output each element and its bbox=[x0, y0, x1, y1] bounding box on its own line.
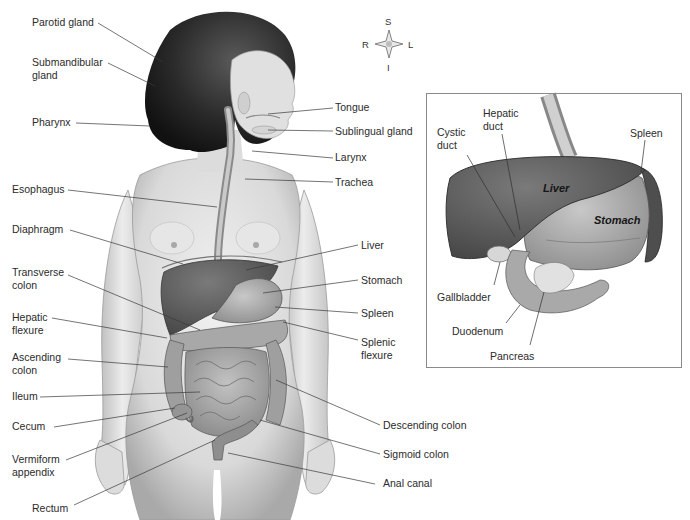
label-transverse-colon: Transverse colon bbox=[12, 266, 64, 291]
digestive-system-figure: S R L I Parotid gland Submandibular glan… bbox=[0, 0, 690, 520]
inset-label-hepatic-duct: Hepatic duct bbox=[483, 107, 519, 132]
label-splenic-flexure: Splenic flexure bbox=[361, 336, 395, 361]
label-submandibular-gland: Submandibular gland bbox=[32, 56, 103, 81]
inset-label-duodenum: Duodenum bbox=[452, 325, 503, 338]
label-rectum: Rectum bbox=[32, 502, 68, 515]
compass-left: L bbox=[408, 39, 413, 50]
label-cecum: Cecum bbox=[12, 420, 45, 433]
compass-inferior: I bbox=[387, 62, 390, 73]
inset-label-spleen: Spleen bbox=[630, 127, 663, 140]
inset-label-cystic-duct: Cystic duct bbox=[437, 126, 466, 151]
label-liver: Liver bbox=[361, 239, 384, 252]
label-anal-canal: Anal canal bbox=[383, 477, 432, 490]
label-ascending-colon: Ascending colon bbox=[12, 351, 61, 376]
inset-organ-label-liver: Liver bbox=[543, 182, 569, 194]
label-sublingual-gland: Sublingual gland bbox=[335, 125, 413, 138]
label-descending-colon: Descending colon bbox=[383, 419, 466, 432]
label-larynx: Larynx bbox=[335, 151, 367, 164]
label-parotid-gland: Parotid gland bbox=[32, 16, 94, 29]
body-silhouette bbox=[95, 130, 334, 520]
label-diaphragm: Diaphragm bbox=[12, 223, 63, 236]
label-sigmoid-colon: Sigmoid colon bbox=[383, 448, 449, 461]
label-pharynx: Pharynx bbox=[32, 116, 71, 129]
inset-label-gallbladder: Gallbladder bbox=[437, 291, 491, 304]
label-vermiform-appendix: Vermiform appendix bbox=[12, 453, 60, 478]
label-ileum: Ileum bbox=[12, 390, 38, 403]
compass-superior: S bbox=[385, 16, 391, 27]
label-hepatic-flexure: Hepatic flexure bbox=[12, 311, 48, 336]
label-tongue: Tongue bbox=[335, 101, 369, 114]
orientation-compass bbox=[375, 30, 403, 58]
label-esophagus: Esophagus bbox=[12, 183, 65, 196]
label-trachea: Trachea bbox=[335, 176, 373, 189]
inset-label-pancreas: Pancreas bbox=[490, 350, 534, 363]
label-stomach: Stomach bbox=[361, 274, 402, 287]
compass-right: R bbox=[362, 39, 369, 50]
label-spleen: Spleen bbox=[361, 307, 394, 320]
inset-organ-label-stomach: Stomach bbox=[594, 214, 640, 226]
